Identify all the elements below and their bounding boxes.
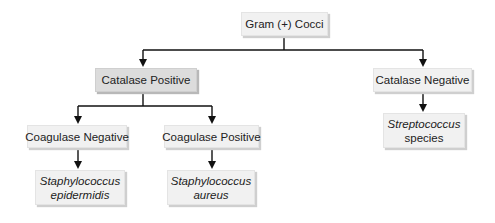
node-label: Coagulase Negative <box>25 130 129 144</box>
node-label-genus: Streptococcus <box>388 117 461 131</box>
node-streptococcus-species: Streptococcus species <box>383 113 465 148</box>
node-label: Catalase Negative <box>376 73 470 87</box>
node-staphylococcus-aureus: Staphylococcus aureus <box>167 170 255 205</box>
node-staphylococcus-epidermidis: Staphylococcus epidermidis <box>35 170 125 205</box>
node-coagulase-positive: Coagulase Positive <box>164 125 259 148</box>
node-label-genus: Staphylococcus <box>171 174 252 188</box>
node-label-species: aureus <box>193 188 228 202</box>
node-catalase-negative: Catalase Negative <box>373 68 472 92</box>
node-coagulase-negative: Coagulase Negative <box>27 125 127 148</box>
node-catalase-positive: Catalase Positive <box>95 68 197 92</box>
node-label-genus: Staphylococcus <box>40 174 121 188</box>
node-gram-positive-cocci: Gram (+) Cocci <box>241 12 328 36</box>
node-label: Coagulase Positive <box>162 130 260 144</box>
node-label-species: species <box>405 131 444 145</box>
gram-positive-cocci-flowchart: Gram (+) Cocci Catalase Positive Catalas… <box>0 0 495 223</box>
node-label: Catalase Positive <box>102 73 191 87</box>
node-label-species: epidermidis <box>51 188 110 202</box>
node-label: Gram (+) Cocci <box>245 17 323 31</box>
